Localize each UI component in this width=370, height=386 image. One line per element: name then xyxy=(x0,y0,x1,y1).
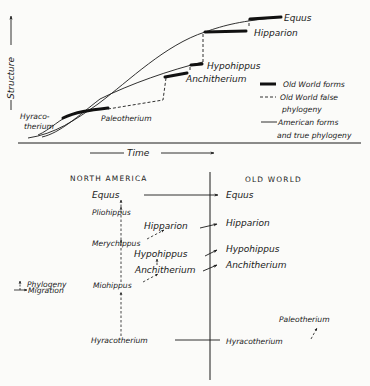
key: Phylogeny Migration xyxy=(14,280,67,295)
migration-map: NORTH AMERICA OLD WORLD Equus Pliohippus… xyxy=(14,172,330,380)
ow-equus: Equus xyxy=(226,190,254,200)
y-axis: Structure xyxy=(6,16,16,110)
header-old-world: OLD WORLD xyxy=(245,175,302,184)
ow-hipparion: Hipparion xyxy=(226,218,270,228)
horse-evolution-diagram: Structure Time xyxy=(0,0,370,386)
label-hypohippus: Hypohippus xyxy=(207,61,261,71)
legend: Old World forms Old World false phylogen… xyxy=(260,80,352,140)
legend-false-phylogeny-2: phylogeny xyxy=(281,105,322,114)
na-equus: Equus xyxy=(92,190,120,200)
structure-time-chart: Structure Time xyxy=(6,13,361,158)
x-axis: Time xyxy=(90,148,214,158)
na-merychippus: Merychippus xyxy=(92,239,140,248)
label-equus: Equus xyxy=(284,13,312,23)
na-anchitherium: Anchitherium xyxy=(134,265,196,275)
legend-old-world-forms: Old World forms xyxy=(283,80,345,89)
ow-anchitherium: Anchitherium xyxy=(225,260,287,270)
ow-hypohippus: Hypohippus xyxy=(226,244,280,254)
na-hypohippus: Hypohippus xyxy=(134,249,188,259)
label-hipparion: Hipparion xyxy=(254,28,298,38)
label-hyracotherium-2: therium xyxy=(24,122,54,131)
legend-american-2: and true phylogeny xyxy=(277,131,352,140)
ow-hyracotherium: Hyracotherium xyxy=(226,337,283,346)
na-hipparion: Hipparion xyxy=(144,221,188,231)
legend-american-1: American forms xyxy=(277,118,338,127)
header-north-america: NORTH AMERICA xyxy=(70,174,148,183)
key-migration: Migration xyxy=(28,286,64,295)
x-axis-label: Time xyxy=(127,148,150,158)
na-hyracotherium: Hyracotherium xyxy=(91,336,148,345)
label-anchitherium: Anchitherium xyxy=(185,74,247,84)
label-paleotherium: Paleotherium xyxy=(101,114,152,123)
y-axis-label: Structure xyxy=(6,56,16,99)
na-pliohippus: Pliohippus xyxy=(92,208,131,217)
legend-false-phylogeny-1: Old World false xyxy=(280,93,338,102)
label-hyracotherium-1: Hyraco- xyxy=(20,112,50,121)
ow-paleotherium: Paleotherium xyxy=(279,315,330,324)
na-miohippus: Miohippus xyxy=(93,281,132,290)
